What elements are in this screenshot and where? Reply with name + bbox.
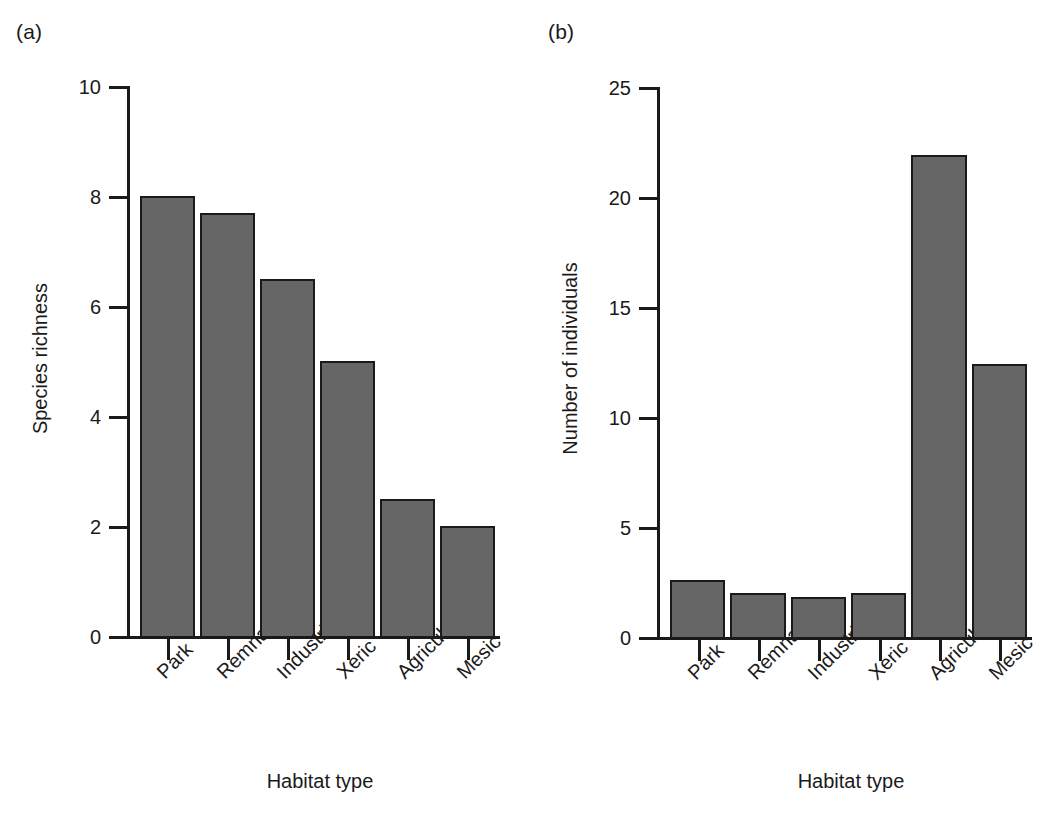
y-axis-tick-label: 25 <box>549 78 631 98</box>
y-axis-title: Species richness <box>29 149 52 569</box>
y-axis-title: Number of individuals <box>559 149 582 569</box>
panel-label: (a) <box>16 20 42 44</box>
y-axis-tick <box>639 307 660 310</box>
bar <box>320 361 375 639</box>
x-axis-title: Habitat type <box>140 770 500 793</box>
x-axis-line <box>127 636 500 639</box>
x-axis-line <box>657 637 1032 640</box>
y-axis-line <box>127 86 130 639</box>
bar <box>200 213 255 640</box>
y-axis-tick <box>109 86 130 89</box>
bar <box>380 499 435 640</box>
x-axis-title: Habitat type <box>670 770 1032 793</box>
bar <box>972 364 1027 640</box>
bar <box>851 593 906 640</box>
panel-label: (b) <box>548 20 574 44</box>
y-axis-tick <box>639 87 660 90</box>
y-axis-tick <box>639 527 660 530</box>
figure-root: (a)0246810ParkRemnantIndustrialXericAgri… <box>0 0 1060 840</box>
y-axis-tick-label: 10 <box>19 77 101 97</box>
x-axis-category-label: Park <box>684 640 727 683</box>
chart-panel-b: (b)0510152025ParkRemnantIndustrialXericA… <box>530 0 1060 840</box>
y-axis-tick <box>109 416 130 419</box>
bar <box>440 526 495 639</box>
y-axis-tick <box>109 196 130 199</box>
y-axis-line <box>657 87 660 640</box>
bar <box>260 279 315 640</box>
x-axis-category-label: Xeric <box>333 636 379 682</box>
y-axis-tick <box>639 197 660 200</box>
x-axis-category-label: Park <box>153 639 196 682</box>
y-axis-tick-label: 0 <box>19 627 101 647</box>
y-axis-tick <box>639 417 660 420</box>
y-axis-tick <box>109 526 130 529</box>
bar <box>670 580 725 640</box>
y-axis-tick-label: 0 <box>549 628 631 648</box>
chart-panel-a: (a)0246810ParkRemnantIndustrialXericAgri… <box>0 0 530 840</box>
y-axis-tick <box>109 306 130 309</box>
bar <box>911 155 966 640</box>
bar <box>140 196 195 639</box>
x-axis-category-label: Xeric <box>865 637 911 683</box>
